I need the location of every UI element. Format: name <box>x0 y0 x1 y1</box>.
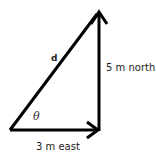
resultant-vector-arrow <box>10 14 97 130</box>
east-vector-label: 3 m east <box>36 142 80 152</box>
angle-theta-label: θ <box>33 111 40 122</box>
east-vector-arrow <box>10 122 98 138</box>
resultant-vector-label: d <box>51 54 57 63</box>
north-vector-arrow <box>91 12 107 131</box>
north-vector-label: 5 m north <box>106 63 155 73</box>
